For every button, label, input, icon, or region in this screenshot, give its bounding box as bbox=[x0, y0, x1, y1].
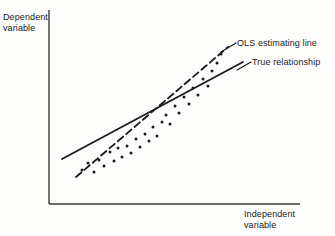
data-point bbox=[165, 114, 168, 117]
data-point bbox=[220, 53, 223, 56]
data-point bbox=[103, 165, 106, 168]
ols-estimating-line-leader bbox=[221, 43, 236, 52]
data-point bbox=[87, 162, 90, 165]
true-relationship-label: True relationship bbox=[252, 57, 320, 67]
data-point bbox=[161, 121, 164, 124]
data-point bbox=[183, 96, 186, 99]
data-point bbox=[81, 169, 84, 172]
data-point bbox=[207, 85, 210, 88]
data-point bbox=[139, 146, 142, 149]
data-point bbox=[109, 151, 112, 154]
data-point bbox=[126, 145, 129, 148]
data-point bbox=[211, 70, 214, 73]
data-point bbox=[113, 160, 116, 163]
data-point bbox=[98, 159, 101, 162]
data-point bbox=[202, 78, 205, 81]
data-series bbox=[62, 47, 243, 177]
ols-estimating-line bbox=[76, 47, 228, 177]
plot-canvas bbox=[0, 0, 335, 236]
data-point bbox=[135, 138, 138, 141]
regression-figure: Dependent variable Independent variable … bbox=[0, 0, 335, 236]
data-point bbox=[156, 135, 159, 138]
data-point bbox=[188, 103, 191, 106]
y-axis-label: Dependent variable bbox=[3, 12, 48, 34]
data-point bbox=[93, 171, 96, 174]
data-point bbox=[130, 152, 133, 155]
data-point bbox=[178, 112, 181, 115]
data-point bbox=[152, 126, 155, 129]
x-axis-label: Independent variable bbox=[244, 209, 295, 231]
data-point bbox=[144, 133, 147, 136]
data-point bbox=[121, 156, 124, 159]
data-point bbox=[216, 62, 219, 65]
data-point bbox=[192, 87, 195, 90]
data-point bbox=[197, 94, 200, 97]
data-point bbox=[174, 105, 177, 108]
data-point bbox=[117, 147, 120, 150]
data-point bbox=[148, 140, 151, 143]
ols-estimating-line-label: OLS estimating line bbox=[237, 38, 317, 48]
data-point bbox=[169, 123, 172, 126]
